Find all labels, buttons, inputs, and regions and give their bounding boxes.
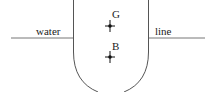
line-label: line xyxy=(155,25,172,37)
centre-of-buoyancy-marker xyxy=(105,51,115,63)
b-label: B xyxy=(112,40,119,52)
floating-body-diagram: water line G B xyxy=(0,0,207,92)
water-label: water xyxy=(36,25,61,37)
g-label: G xyxy=(112,8,120,20)
centre-of-gravity-marker xyxy=(105,20,115,32)
hull-outline xyxy=(74,0,149,92)
